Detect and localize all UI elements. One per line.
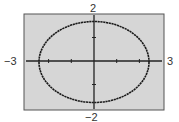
x-min-label: −3 [4, 56, 17, 67]
y-min-label: −2 [85, 112, 98, 122]
y-max-label: 2 [90, 3, 96, 14]
x-max-label: 3 [167, 56, 173, 67]
ellipse-plot [0, 0, 179, 122]
